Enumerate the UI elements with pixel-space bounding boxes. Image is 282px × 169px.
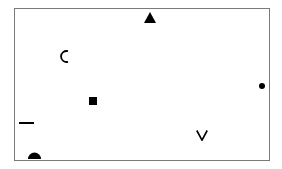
triangle-icon [144,12,156,23]
semicircle-icon [28,152,41,159]
dot-icon [259,83,265,89]
canvas-frame [14,8,270,161]
arc-c-icon [60,50,69,63]
chevron-v-icon [196,130,208,141]
dash-icon [19,122,34,124]
square-icon [89,97,97,105]
